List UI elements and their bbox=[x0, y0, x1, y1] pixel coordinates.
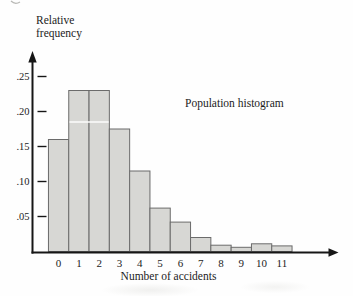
bar-5 bbox=[150, 208, 170, 251]
y-axis-arrowhead-icon bbox=[28, 51, 36, 63]
x-category-label: 7 bbox=[198, 257, 204, 269]
y-tick-label: .05 bbox=[16, 211, 29, 222]
bar-7 bbox=[191, 238, 211, 252]
x-category-label: 3 bbox=[117, 257, 123, 269]
x-category-label: 10 bbox=[256, 257, 268, 269]
bar-1 bbox=[69, 91, 89, 252]
bar-2 bbox=[89, 91, 109, 252]
y-tick-label: .15 bbox=[16, 141, 29, 152]
y-tick-label: .20 bbox=[16, 106, 29, 117]
x-category-label: 9 bbox=[239, 257, 245, 269]
bar-6 bbox=[170, 222, 190, 251]
bar-11 bbox=[272, 246, 292, 252]
y-tick-label: .10 bbox=[16, 176, 29, 187]
x-category-label: 0 bbox=[56, 257, 62, 269]
bar-0 bbox=[48, 140, 68, 252]
x-category-label: 4 bbox=[137, 257, 143, 269]
x-category-label: 1 bbox=[76, 257, 82, 269]
bar-3 bbox=[109, 129, 129, 252]
x-category-label: 8 bbox=[218, 257, 224, 269]
x-category-label: 11 bbox=[277, 257, 288, 269]
x-axis-title: Number of accidents bbox=[48, 270, 289, 282]
x-category-label: 2 bbox=[96, 257, 102, 269]
bar-9 bbox=[231, 247, 251, 251]
annotation-population-histogram: Population histogram bbox=[185, 97, 284, 109]
y-tick-label: .25 bbox=[16, 71, 29, 82]
y-axis-title: Relative frequency bbox=[36, 14, 82, 40]
x-category-label: 5 bbox=[157, 257, 163, 269]
scan-artifact-mark bbox=[11, 1, 20, 3]
x-axis-arrowhead-icon bbox=[329, 248, 339, 257]
histogram-plot: .05.10.15.20.2501234567891011 bbox=[0, 0, 353, 296]
figure-population-histogram: .05.10.15.20.2501234567891011 Relative f… bbox=[0, 0, 353, 296]
bar-8 bbox=[211, 245, 231, 251]
x-category-label: 6 bbox=[178, 257, 184, 269]
bar-4 bbox=[130, 171, 150, 252]
bar-10 bbox=[251, 244, 271, 252]
